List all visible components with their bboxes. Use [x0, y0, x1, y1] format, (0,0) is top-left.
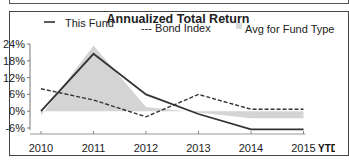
- x-tick-label: 2015: [291, 142, 315, 154]
- x-tick-label: 2011: [82, 142, 106, 154]
- legend-swatch-avg-fund-type: [236, 23, 242, 29]
- y-tick-label: 0%: [9, 105, 25, 117]
- x-tick-label: 2014: [239, 142, 263, 154]
- y-tick-labels: 24%18%12%6%0%-6%: [3, 38, 25, 134]
- legend-label-bond-index: --- Bond Index: [141, 22, 211, 34]
- x-tick-label: 2013: [186, 142, 210, 154]
- y-tick-label: 12%: [3, 72, 25, 84]
- y-tick-label: -6%: [5, 122, 25, 134]
- legend-label-this-fund: This Fund: [65, 17, 114, 29]
- y-tick-label: 18%: [3, 55, 25, 67]
- avg-area-layer: [41, 45, 304, 118]
- ytd-label: YTD: [318, 143, 335, 154]
- avg-fund-type-area: [41, 45, 304, 118]
- legend-label-avg-fund-type: Avg for Fund Type: [245, 23, 334, 35]
- x-tick-label: 2012: [134, 142, 158, 154]
- x-tick-label: 2010: [29, 142, 53, 154]
- x-tick-labels: 201020112012201320142015: [29, 142, 316, 154]
- y-tick-label: 24%: [3, 38, 25, 50]
- y-tick-label: 6%: [9, 88, 25, 100]
